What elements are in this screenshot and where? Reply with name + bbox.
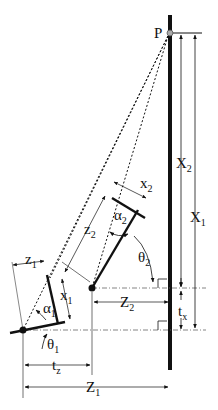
label-x1: x1 <box>60 287 73 306</box>
label-theta2: θ2 <box>138 249 150 268</box>
label-Z2: Z2 <box>120 294 134 313</box>
camera2-center <box>89 285 96 292</box>
label-X1: X1 <box>190 209 206 228</box>
stereo-camera-geometry-diagram: P X2 X1 tx Z2 tz Z1 z2 x2 α2 θ2 z1 x1 α1… <box>0 0 218 410</box>
label-Z1: Z1 <box>86 379 100 398</box>
label-X2: X2 <box>176 155 192 174</box>
point-p-marker <box>167 30 173 36</box>
label-tx: tx <box>178 303 187 322</box>
label-x2: x2 <box>140 175 153 194</box>
ray-to-camera2 <box>92 36 168 288</box>
label-z2: z2 <box>84 221 96 240</box>
label-z1: z1 <box>25 251 37 270</box>
label-theta1: θ1 <box>47 336 59 355</box>
label-tz: tz <box>52 357 61 376</box>
label-alpha2: α2 <box>114 207 127 226</box>
label-p: P <box>154 25 162 41</box>
